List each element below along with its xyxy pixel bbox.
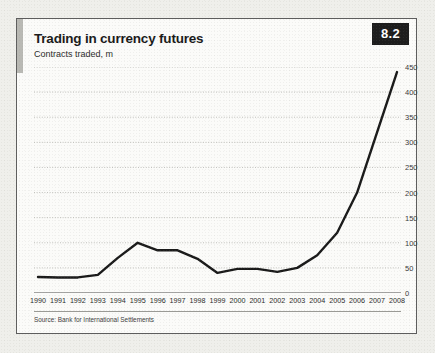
x-axis-tick-label: 1993: [90, 296, 106, 305]
x-axis-tick-label: 2004: [309, 296, 325, 305]
y-axis-labels: 050100150200250300350400450: [405, 67, 435, 293]
line-chart-svg: [34, 67, 401, 293]
chart-number-badge: 8.2: [372, 23, 409, 45]
x-axis-tick-label: 2003: [289, 296, 305, 305]
x-axis-tick-label: 2000: [229, 296, 245, 305]
plot-area: [34, 67, 401, 293]
x-axis-tick-label: 2005: [329, 296, 345, 305]
x-axis-tick-label: 2008: [389, 296, 405, 305]
accent-bar: [17, 19, 23, 73]
y-axis-tick-label: 200: [405, 188, 418, 197]
y-axis-tick-label: 100: [405, 238, 418, 247]
x-axis-tick-label: 1997: [170, 296, 186, 305]
y-axis-tick-label: 450: [405, 63, 418, 72]
chart-subtitle: Contracts traded, m: [34, 49, 113, 59]
x-axis-tick-label: 2006: [349, 296, 365, 305]
y-axis-tick-label: 350: [405, 113, 418, 122]
x-axis-tick-label: 2002: [269, 296, 285, 305]
y-axis-tick-label: 300: [405, 138, 418, 147]
source-divider: [34, 311, 401, 312]
source-note: Source: Bank for International Settlemen…: [34, 316, 154, 323]
y-axis-tick-label: 400: [405, 88, 418, 97]
x-axis-tick-label: 1995: [130, 296, 146, 305]
page-title: Trading in currency futures: [34, 31, 203, 46]
y-axis-tick-label: 0: [405, 289, 409, 298]
y-axis-tick-label: 50: [405, 263, 413, 272]
x-axis-tick-label: 1990: [30, 296, 46, 305]
chart-card: Trading in currency futures Contracts tr…: [16, 18, 417, 334]
y-axis-tick-label: 250: [405, 163, 418, 172]
x-axis-tick-label: 2001: [249, 296, 265, 305]
data-series-line: [38, 72, 397, 277]
x-axis-tick-label: 1994: [110, 296, 126, 305]
x-axis-tick-label: 1998: [190, 296, 206, 305]
x-axis-labels: 1990199119921993199419951996199719981999…: [34, 296, 401, 308]
x-axis-tick-label: 1991: [50, 296, 66, 305]
x-axis-tick-label: 1999: [210, 296, 226, 305]
x-axis-tick-label: 2007: [369, 296, 385, 305]
y-axis-tick-label: 150: [405, 213, 418, 222]
x-axis-tick-label: 1992: [70, 296, 86, 305]
x-axis-tick-label: 1996: [150, 296, 166, 305]
